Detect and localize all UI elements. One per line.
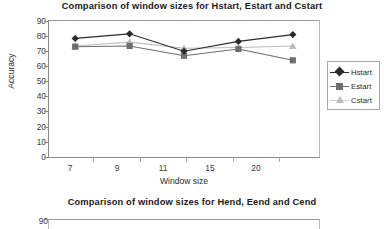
- legend-label: Cstart: [349, 96, 372, 105]
- x-tick-label: 11: [159, 163, 168, 173]
- y-axis-title: Accuracy: [6, 36, 16, 106]
- y-tick-label: 30: [4, 106, 46, 116]
- chart-title: Comparison of window sizes for Hend, Een…: [0, 197, 384, 207]
- y-tick-mark: [44, 219, 48, 220]
- chart-hend-eend-cend: Comparison of window sizes for Hend, Een…: [0, 190, 384, 229]
- y-tick-label: 10: [4, 137, 46, 147]
- triangle-icon: [330, 95, 349, 105]
- chart-legend: Hstart Estart Cstart: [327, 61, 380, 110]
- chart-hstart-estart-cstart: Comparison of window sizes for Hstart, E…: [0, 0, 384, 190]
- diamond-icon: [330, 67, 349, 77]
- chart-title: Comparison of window sizes for Hstart, E…: [0, 1, 384, 11]
- y-tick-label: 90: [4, 16, 46, 26]
- plot-area: [48, 219, 320, 229]
- x-tick-label: 9: [115, 163, 120, 173]
- plot-area: [48, 20, 320, 158]
- y-tick-label: 90: [6, 216, 48, 226]
- x-tick-label: 20: [251, 163, 260, 173]
- screenshot-page: Comparison of window sizes for Hstart, E…: [0, 0, 384, 229]
- y-axis-line: [48, 20, 49, 158]
- legend-item-estart: Estart: [328, 79, 379, 93]
- x-tick-label: 7: [68, 163, 73, 173]
- legend-item-hstart: Hstart: [328, 65, 379, 79]
- square-icon: [330, 81, 349, 91]
- x-tick-label: 15: [205, 163, 214, 173]
- legend-label: Estart: [349, 82, 371, 91]
- legend-label: Hstart: [349, 68, 372, 77]
- x-axis-title: Window size: [48, 176, 320, 186]
- y-tick-label: 20: [4, 122, 46, 132]
- legend-item-cstart: Cstart: [328, 93, 379, 107]
- y-tick-label: 0: [4, 152, 46, 162]
